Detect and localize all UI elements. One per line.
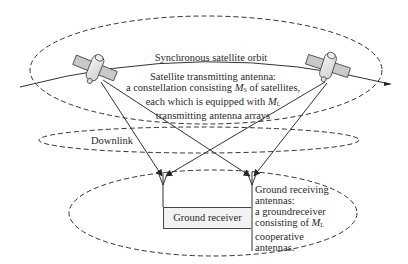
satellite-right-icon xyxy=(302,46,353,89)
sat-note-line3: each which is equipped with ML xyxy=(118,96,308,110)
downlink-ellipse xyxy=(39,127,359,153)
satellite-antenna-note: Satellite transmitting antenna: a conste… xyxy=(118,71,308,121)
downlink-label: Downlink xyxy=(91,136,133,147)
sat-note-line1: Satellite transmitting antenna: xyxy=(118,71,308,82)
ground-receiver-label: Ground receiver xyxy=(164,213,251,224)
ground-note-line5: cooperative xyxy=(255,231,329,242)
ground-note-line4: consisting of ML xyxy=(255,217,329,231)
ground-note-line1: Ground receiving xyxy=(255,184,329,195)
ground-antennas-note: Ground receiving antennas: a groundrecei… xyxy=(255,184,329,253)
ground-receiver-box: Ground receiver xyxy=(163,207,251,229)
satellite-left-icon xyxy=(68,47,120,92)
ground-note-line3: a groundreceiver xyxy=(255,206,329,217)
ground-note-line6: antennas. xyxy=(255,242,329,253)
antenna-left-icon xyxy=(158,172,168,207)
orbit-label: Synchronous satellite orbit xyxy=(146,53,276,64)
sat-note-line4: transmitting antenna arrays xyxy=(118,110,308,121)
sat-note-line2: a constellation consisting MS of satelli… xyxy=(118,82,308,96)
orbit-arrowhead-icon xyxy=(384,82,392,86)
ground-note-line2: antennas: xyxy=(255,195,329,206)
